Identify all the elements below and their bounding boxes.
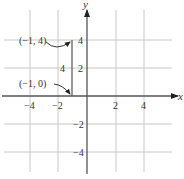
y-tick-label: −4 (73, 147, 84, 158)
y-tick-label: 2 (78, 63, 83, 74)
x-tick-label: 2 (113, 100, 118, 111)
pointer-arrow-bottom (54, 84, 70, 94)
coordinate-plane-figure: x y −4 −2 2 4 4 2 −2 −4 4 (−1, 4) (−1, 0… (0, 0, 184, 179)
point-label-top: (−1, 4) (19, 35, 46, 47)
x-tick-label: 4 (141, 100, 146, 111)
x-tick-label: −4 (24, 100, 35, 111)
y-tick-label: 4 (78, 35, 83, 46)
x-axis-label: x (177, 90, 183, 102)
segment-length-label: 4 (60, 63, 65, 74)
x-tick-label: −2 (52, 100, 63, 111)
y-axis-label: y (82, 0, 88, 10)
y-tick-label: −2 (73, 119, 84, 130)
point-label-bottom: (−1, 0) (19, 78, 46, 90)
